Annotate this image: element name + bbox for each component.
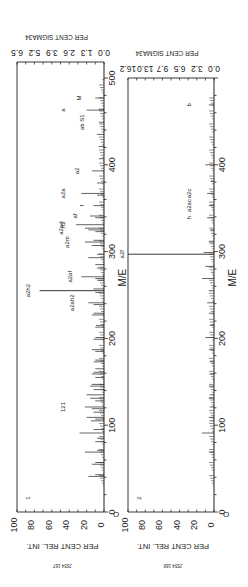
intensity-tick-label: 100 [120,517,130,532]
spectrum-panel-2: 0100200300400M/E020406080100OPER CENT RE… [119,50,238,568]
peak-annotation: a2c [186,189,192,199]
y2axis-label: PER CENT SIGMA34 [25,34,88,41]
peak-annotation: a2f [119,250,125,259]
sigma-tick-label: 3.2 [191,64,203,74]
intensity-tick-label: 80 [137,520,147,530]
peak-annotation: a2ah2 [69,294,75,311]
intensity-tick-label: 40 [61,520,71,530]
sigma-tick-label: 0.0 [98,48,110,58]
sigma-tick-label: 3.9 [46,48,58,58]
xaxis-label: M/E [227,268,238,286]
intensity-tick-label: 0 [96,522,106,527]
peak-annotation: ab S1 [79,114,85,130]
peak-annotation: af [72,213,78,218]
peak-annotation: a2af [67,271,73,283]
xaxis-label: M/E [117,268,128,286]
spectrum-panel-1: 0100200300400500M/E020406080100OPER CENT… [9,34,128,568]
peak-annotation: a2h2 [25,283,31,297]
intensity-tick-label: 100 [9,517,19,532]
intensity-tick-label: 60 [154,520,164,530]
intensity-tick-label: 40 [172,520,182,530]
peak-annotation: a2 [74,167,80,174]
sigma-tick-label: 13.0 [137,64,154,74]
intensity-tick-label: 0 [206,522,216,527]
peak-annotation: h2 [60,221,66,228]
mz-tick-label: 400 [107,157,117,172]
peak-annotation: a2ac [186,199,192,212]
peak-annotation: b [186,103,192,107]
sigma-tick-label: 6.5 [11,48,23,58]
mz-tick-label: 200 [107,331,117,346]
y2axis-label: PER CENT SIGMA34 [135,50,198,57]
mass-spectra-figure: 0100200300400500M/E020406080100OPER CENT… [0,0,248,587]
mz-tick-label: 100 [217,418,227,433]
sigma-tick-label: 1.3 [80,48,92,58]
peak-annotation: a2a [60,188,66,199]
mz-tick-label: 500 [107,70,117,85]
peak-annotation: 121 [60,401,66,412]
panel-number: 2 [136,496,142,500]
mz-tick-label: 400 [217,157,227,172]
mz-tick-label: 300 [107,244,117,259]
spectra-svg: 0100200300400500M/E020406080100OPER CENT… [0,0,248,587]
figure-code: JS54 167 [52,563,72,568]
sigma-tick-label: 9.7 [156,64,168,74]
peak-annotation: a2m [64,236,70,248]
intensity-tick-label: 20 [79,520,89,530]
mz-tick-label: 200 [217,331,227,346]
sigma-tick-label: 16.2 [119,64,136,74]
plot-frame [128,78,214,512]
peak-annotation: f [79,204,85,206]
yaxis-label: PER CENT REL. INT. [137,542,209,551]
intensity-tick-label: 20 [189,520,199,530]
mz-tick-label: 100 [107,418,117,433]
sigma-tick-label: 6.5 [173,64,185,74]
sigma-tick-label: 2.6 [63,48,75,58]
origin-label: O [113,510,119,519]
intensity-tick-label: 60 [44,520,54,530]
yaxis-label: PER CENT REL. INT. [27,542,99,551]
panel-number: 1 [25,496,31,500]
peak-annotation: M [76,95,82,100]
sigma-tick-label: 0.0 [208,64,220,74]
peak-annotation: h [186,216,192,219]
figure-code: JS54 168 [163,563,183,568]
mz-tick-label: 300 [217,244,227,259]
intensity-tick-label: 80 [26,520,36,530]
origin-label: O [223,510,229,519]
sigma-tick-label: 5.2 [28,48,40,58]
peak-annotation: a [60,108,66,112]
